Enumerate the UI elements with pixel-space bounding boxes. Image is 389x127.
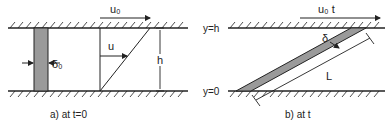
length-label: L (326, 70, 332, 82)
sheared-strip (236, 28, 366, 91)
bottom-wall-label: y=0 (203, 86, 220, 97)
top-wall-label: y=h (203, 23, 219, 34)
caption-a: a) at t=0 (50, 109, 87, 120)
profile-line (100, 28, 150, 91)
diagram: δ₀ u₀ u h a) at t=0 (0, 0, 389, 127)
top-wall-hatch (10, 22, 183, 28)
profile-label: u (108, 40, 114, 52)
thickness-label: δ₀ (52, 58, 63, 70)
top-wall-hatch-b (230, 22, 379, 28)
height-label: h (157, 54, 163, 66)
length-tick-start (252, 95, 260, 106)
panel-b: y=h y=0 u₀ t δ L b) at t (203, 3, 385, 120)
length-tick-end (366, 33, 374, 44)
velocity-label: u₀ (110, 3, 121, 15)
bottom-wall-hatch (10, 91, 183, 97)
panel-a: δ₀ u₀ u h a) at t=0 (8, 3, 188, 120)
thickness-label-b: δ (322, 32, 328, 44)
caption-b: b) at t (285, 109, 311, 120)
material-strip (34, 28, 48, 91)
displacement-label: u₀ t (318, 3, 335, 15)
